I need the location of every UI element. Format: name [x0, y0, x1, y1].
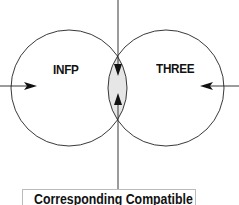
infp-label: INFP — [53, 62, 79, 77]
three-label: THREE — [156, 61, 194, 76]
result-box-label: Corresponding Compatible — [34, 191, 193, 205]
venn-diagram — [0, 0, 239, 205]
